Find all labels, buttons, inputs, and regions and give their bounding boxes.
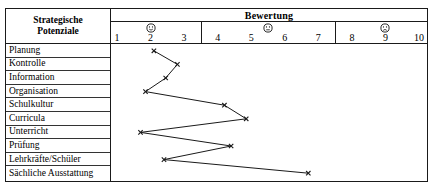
scale-tick-1: 1 (115, 32, 120, 43)
row-label-10: Sächliche Ausstattung (6, 166, 110, 180)
row-label-4: Organisation (6, 85, 110, 99)
scale-tick-2: 2 (148, 32, 153, 43)
row-label-6: Curricula (6, 112, 110, 126)
row-header-title-line1: Strategische (33, 15, 83, 26)
scale-group-divider-2 (335, 22, 336, 43)
scale-tick-3: 3 (182, 32, 187, 43)
scale-tick-4: 4 (215, 32, 220, 43)
scale-tick-9: 9 (383, 32, 388, 43)
row-label-2: Kontrolle (6, 58, 110, 72)
smiley-sad-icon (380, 23, 390, 33)
table-header: Strategische Potenziale Bewertung 123456… (6, 9, 427, 44)
row-header-title-line2: Potenziale (37, 26, 79, 37)
category-label-column: PlanungKontrolleInformationOrganisationS… (6, 44, 111, 181)
row-label-5: Schulkultur (6, 98, 110, 112)
scale-group-divider-1 (201, 22, 202, 43)
row-label-3: Information (6, 71, 110, 85)
scale-tick-10: 10 (414, 32, 424, 43)
evaluation-matrix-figure: Strategische Potenziale Bewertung 123456… (0, 0, 434, 188)
scale-tick-8: 8 (349, 32, 354, 43)
row-label-1: Planung (6, 44, 110, 58)
data-point-3 (164, 76, 168, 80)
row-label-8: Prüfung (6, 139, 110, 153)
strategic-potentials-table: Strategische Potenziale Bewertung 123456… (5, 8, 428, 182)
rating-profile-line (141, 51, 309, 173)
smiley-neutral-icon (263, 23, 273, 33)
scale-tick-7: 7 (316, 32, 321, 43)
smiley-happy-icon (146, 23, 156, 33)
row-label-9: Lehrkräfte/Schüler (6, 153, 110, 167)
data-point-2 (175, 62, 179, 66)
row-header-title: Strategische Potenziale (6, 9, 111, 44)
scale-tick-5: 5 (249, 32, 254, 43)
row-label-7: Unterricht (6, 126, 110, 140)
scale-title: Bewertung (111, 9, 427, 22)
data-point-1 (152, 49, 156, 53)
rating-scale-axis: 12345678910 (111, 22, 427, 44)
rating-profile-plot (111, 44, 427, 181)
scale-tick-6: 6 (282, 32, 287, 43)
